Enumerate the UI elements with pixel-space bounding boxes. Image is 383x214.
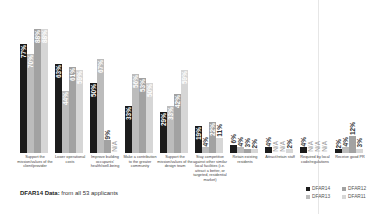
bar-dfar14: 50% — [90, 83, 97, 154]
bar-value-label: 59% — [181, 71, 188, 84]
bar-chart: DFAR14 Data: from all 53 applicants DFAR… — [0, 0, 383, 214]
bar-value-label: 61% — [69, 68, 76, 81]
bar-value-label: N/A — [279, 141, 286, 152]
bar-dfar11: 2% — [251, 149, 258, 153]
bar-value-label: 67% — [97, 60, 104, 73]
bar-value-label: N/A — [321, 141, 328, 152]
category-label: Lower operational costs — [52, 155, 88, 164]
bar-value-label: 33% — [167, 107, 174, 120]
bar-value-label: 4% — [342, 137, 349, 146]
bar-value-label: 4% — [300, 137, 307, 146]
category-label: Required by local code/regulations — [297, 155, 333, 164]
bar-dfar12: 22% — [209, 122, 216, 153]
bar-dfar14: 77% — [20, 44, 27, 153]
bar-value-label: 63% — [55, 65, 62, 78]
bar-dfar13: 70% — [27, 54, 34, 153]
bar-value-label: 42% — [174, 95, 181, 108]
bar-dfar11: 88% — [41, 29, 48, 153]
category-label: Make a contribution to the greater commu… — [122, 155, 158, 169]
bar-dfar13: 33% — [167, 106, 174, 153]
bar-group: 33%56%53%50% — [125, 0, 155, 153]
legend-swatch — [342, 187, 346, 191]
bar-value-label: 3% — [356, 138, 363, 147]
bar-dfar14: 29% — [160, 112, 167, 153]
category-label: Support the mission/values of the client… — [17, 155, 53, 169]
bar-value-label: 4% — [265, 137, 272, 146]
bar-value-label: 11% — [216, 124, 223, 137]
bar-dfar11: 50% — [146, 83, 153, 154]
bar-dfar12: 88% — [34, 29, 41, 153]
bar-dfar13: 44% — [62, 91, 69, 153]
bar-dfar13: 4% — [237, 147, 244, 153]
legend-label: DFAR14 — [312, 186, 330, 191]
bar-value-label: 33% — [125, 107, 132, 120]
bar-value-label: 2% — [286, 139, 293, 148]
bar-dfar11: N/A — [321, 139, 328, 153]
bar-dfar14: 33% — [125, 106, 132, 153]
legend-swatch — [306, 195, 310, 199]
bar-value-label: N/A — [111, 141, 118, 152]
bar-dfar12: N/A — [314, 139, 321, 153]
bar-dfar13: N/A — [307, 139, 314, 153]
bar-value-label: 88% — [41, 30, 48, 43]
bar-dfar12: N/A — [279, 139, 286, 153]
category-label: Support the mission/values of the design… — [157, 155, 193, 169]
bar-dfar14: 4% — [265, 147, 272, 153]
bar-value-label: 12% — [349, 122, 356, 135]
data-source-label: DFAR14 Data: — [20, 190, 60, 196]
bar-value-label: 70% — [27, 55, 34, 68]
bar-value-label: 9% — [104, 130, 111, 139]
bar-dfar11: 11% — [216, 138, 223, 154]
bar-value-label: 19% — [195, 127, 202, 140]
bar-value-label: 44% — [62, 92, 69, 105]
bar-dfar11: 3% — [356, 149, 363, 153]
legend-item-dfar12: DFAR12 — [342, 186, 366, 191]
bar-dfar14: 63% — [55, 64, 62, 153]
legend-swatch — [342, 195, 346, 199]
bar-group: 4%N/AN/AN/A — [300, 0, 330, 153]
data-source-note: DFAR14 Data: from all 53 applicants — [20, 190, 118, 196]
bar-value-label: 56% — [132, 75, 139, 88]
bar-dfar12: 53% — [139, 78, 146, 153]
bar-group: 19%4%22%11% — [195, 0, 225, 153]
bar-dfar11: 59% — [76, 70, 83, 153]
bar-dfar11: N/A — [111, 139, 118, 153]
legend-swatch — [306, 187, 310, 191]
bar-value-label: 4% — [237, 137, 244, 146]
bar-value-label: 88% — [34, 30, 41, 43]
bar-group: 77%70%88%88% — [20, 0, 50, 153]
bar-dfar14: 6% — [230, 145, 237, 153]
bar-dfar11: 2% — [286, 149, 293, 153]
bar-dfar12: 3% — [244, 149, 251, 153]
bar-dfar12: 61% — [69, 67, 76, 153]
bar-value-label: 59% — [76, 71, 83, 84]
bar-value-label: N/A — [314, 141, 321, 152]
bar-value-label: 77% — [20, 45, 27, 58]
category-label: Improve building occupants' health/well-… — [87, 155, 123, 169]
bar-value-label: 50% — [146, 84, 153, 97]
bar-group: 2%4%12%3% — [335, 0, 365, 153]
bar-value-label: N/A — [272, 141, 279, 152]
bar-dfar11: 59% — [181, 70, 188, 153]
bar-value-label: 3% — [244, 138, 251, 147]
bar-value-label: 50% — [90, 84, 97, 97]
bar-dfar13: 56% — [132, 74, 139, 153]
bar-group: 63%44%61%59% — [55, 0, 85, 153]
bar-value-label: 29% — [160, 113, 167, 126]
legend-item-dfar13: DFAR13 — [306, 194, 330, 199]
category-label: Retain existing residents — [227, 155, 263, 164]
legend-label: DFAR12 — [348, 186, 366, 191]
bar-value-label: 2% — [251, 139, 258, 148]
bar-dfar14: 4% — [300, 147, 307, 153]
bar-dfar12: 9% — [104, 140, 111, 153]
bar-value-label: 6% — [230, 134, 237, 143]
bar-group: 50%67%9%N/A — [90, 0, 120, 153]
bar-value-label: 53% — [139, 79, 146, 92]
bar-dfar12: 42% — [174, 94, 181, 153]
category-label: Attract/retain staff — [262, 155, 298, 160]
bar-group: 29%33%42%59% — [160, 0, 190, 153]
bar-value-label: 22% — [209, 123, 216, 136]
category-label: Receive good PR — [332, 155, 368, 160]
bar-value-label: 2% — [335, 139, 342, 148]
bar-group: 4%N/AN/A2% — [265, 0, 295, 153]
